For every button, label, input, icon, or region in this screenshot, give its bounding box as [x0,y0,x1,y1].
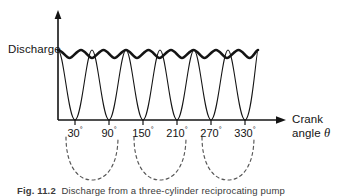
cylinder-1-delivery-curve-f [211,50,245,120]
suction-dashed-curves [66,137,254,180]
x-axis-label-line2: angle θ [292,126,330,140]
cylinder-1-suction-curve [66,137,118,180]
x-axis-ticks [75,120,245,125]
tick-label-330: 330° [234,127,255,139]
x-axis-arrowhead [276,116,286,124]
cylinder-1-delivery-curve-c [109,50,143,120]
cylinder-1-delivery-curve [58,50,75,120]
tick-label-330-text: 330 [234,127,252,139]
degree-icon: ° [80,125,83,134]
cylinder-1-delivery-curve-g [245,50,258,120]
tick-label-150-text: 150 [132,127,150,139]
x-axis [58,116,286,124]
figure-caption-text: Discharge from a three-cylinder reciproc… [61,185,284,196]
y-axis-arrowhead [55,10,62,19]
cylinder-2-suction-curve [134,137,186,180]
cylinder-discharge-curves [58,50,258,120]
figure-caption: Fig. 11.2 Discharge from a three-cylinde… [17,185,285,196]
tick-label-270-text: 270 [200,127,218,139]
tick-label-210-text: 210 [166,127,184,139]
theta-symbol: θ [324,126,330,140]
tick-label-30: 30° [67,127,82,139]
discharge-crank-angle-figure: Discharge Crank angle θ 30° 90° 150° 210… [0,0,338,196]
cylinder-3-suction-curve [202,137,254,180]
y-axis [55,10,62,120]
tick-label-30-text: 30 [67,127,79,139]
x-axis-label-line1: Crank [292,112,330,126]
degree-icon: ° [219,125,222,134]
cylinder-1-delivery-curve-d [143,50,177,120]
tick-label-210: 210° [166,127,187,139]
tick-label-270: 270° [200,127,221,139]
tick-label-90: 90° [101,127,116,139]
x-axis-label-line2-prefix: angle [292,127,324,139]
cylinder-1-delivery-curve-e [177,50,211,120]
degree-icon: ° [185,125,188,134]
figure-number: Fig. 11.2 [17,185,56,196]
degree-icon: ° [114,125,117,134]
cylinder-1-delivery-curve-b [75,50,109,120]
tick-label-150: 150° [132,127,153,139]
degree-icon: ° [151,125,154,134]
x-axis-label: Crank angle θ [292,112,330,140]
y-axis-label: Discharge [8,43,61,56]
tick-label-90-text: 90 [101,127,113,139]
plot-area [0,0,338,196]
degree-icon: ° [253,125,256,134]
